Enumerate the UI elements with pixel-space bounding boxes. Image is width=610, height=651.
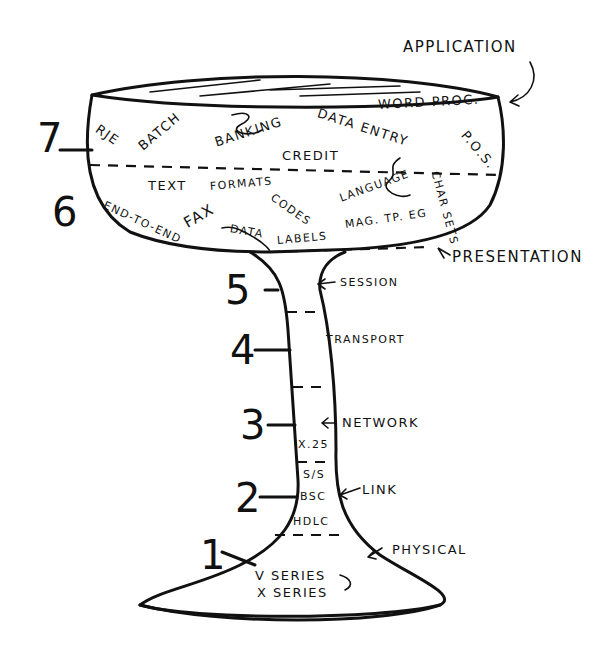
- example-credit: CREDIT: [282, 148, 339, 163]
- layer-number-6: 6: [52, 192, 77, 232]
- glass-drawing: [0, 0, 610, 651]
- layer-number-3: 3: [240, 405, 265, 445]
- label-physical: PHYSICAL: [392, 542, 467, 557]
- example-hdlc: HDLC: [293, 515, 330, 528]
- layer-number-2: 2: [235, 478, 260, 518]
- label-session: SESSION: [340, 276, 399, 289]
- layer-number-7: 7: [37, 118, 62, 158]
- example-bsc: BSC: [300, 490, 327, 503]
- example-text: TEXT: [148, 178, 187, 193]
- layer-number-5: 5: [225, 270, 250, 310]
- label-presentation: PRESENTATION: [452, 248, 583, 266]
- layer-number-4: 4: [230, 330, 255, 370]
- label-link: LINK: [362, 482, 397, 497]
- label-transport: TRANSPORT: [326, 333, 405, 346]
- layer-number-1: 1: [200, 535, 225, 575]
- example-v-series: V SERIES: [255, 568, 326, 583]
- glass-stem-left: [140, 252, 445, 616]
- example-ss: S/S: [303, 468, 325, 481]
- label-network: NETWORK: [342, 415, 419, 430]
- example-x-series: X SERIES: [257, 585, 328, 600]
- example-x25: X.25: [298, 438, 329, 451]
- label-application: APPLICATION: [403, 38, 517, 56]
